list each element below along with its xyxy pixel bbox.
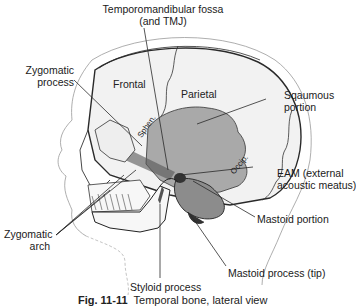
label-mastoid-process-tip: Mastoid process (tip) (228, 267, 325, 279)
label-zygomatic-arch: Zygomatic arch (4, 228, 50, 252)
label-styloid-process: Styloid process (130, 281, 201, 293)
label-zygomatic-process: Zygomatic process (20, 64, 74, 88)
caption-text: Temporal bone, lateral view (134, 294, 268, 306)
caption-number: Fig. 11-11 (78, 294, 128, 306)
region-frontal: Frontal (113, 78, 146, 90)
region-parietal: Parietal (181, 88, 217, 100)
figure-caption: Fig. 11-11Temporal bone, lateral view (78, 294, 267, 306)
label-eam: EAM (external acoustic meatus) (277, 167, 356, 191)
label-squamous-portion: Sqaumous portion (284, 89, 334, 113)
label-temporomandibular-fossa: Temporomandibular fossa (and TMJ) (88, 3, 238, 27)
label-mastoid-portion: Mastoid portion (257, 213, 329, 225)
